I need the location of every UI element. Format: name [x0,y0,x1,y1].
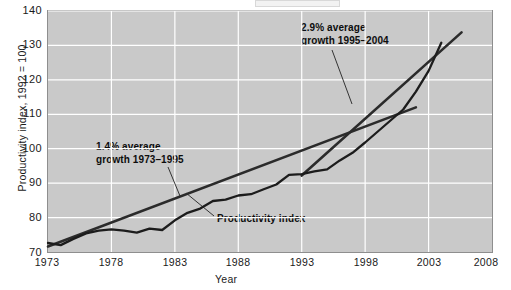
trend-line [302,32,462,175]
chart-figure: 140 130 120 110 100 90 80 70 1973 1978 1… [0,0,511,290]
trend-lines [48,32,462,246]
leader-line-slow [168,167,180,196]
trend-line [48,107,416,246]
gridlines [48,11,492,252]
chart-svg [0,0,511,290]
productivity-index-line [48,43,441,245]
leader-line-fast [332,50,352,104]
